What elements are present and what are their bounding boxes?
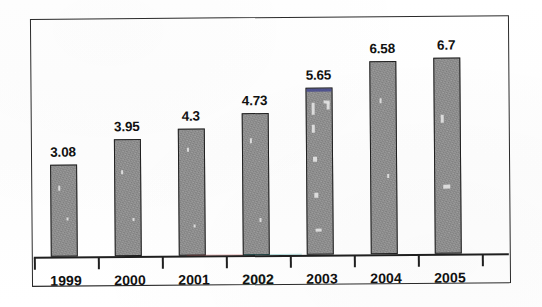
x-axis-tick: [34, 258, 36, 270]
x-axis-tick: [98, 257, 100, 269]
x-tick-label-2004: 2004: [359, 270, 413, 286]
scan-blue-tint: [306, 89, 331, 92]
x-axis-tick: [418, 255, 420, 267]
bar-2000: [114, 139, 142, 256]
x-axis-tick: [226, 256, 228, 268]
scan-speck: [380, 98, 382, 103]
x-tick-label-2002: 2002: [231, 271, 285, 287]
x-tick-label-2001: 2001: [167, 271, 221, 287]
bar-chart-screenshot: 3.08 3.95 4.3 4.73: [0, 0, 542, 307]
scan-speck: [313, 157, 317, 162]
bar-value-label-2000: 3.95: [103, 119, 151, 134]
x-tick-label-1999: 1999: [39, 272, 93, 288]
scan-speck: [121, 170, 123, 174]
x-axis-tick: [162, 257, 164, 269]
scan-speck: [194, 225, 196, 228]
scan-speck: [327, 103, 330, 110]
scan-speck: [443, 185, 450, 189]
x-tick-label-2000: 2000: [103, 272, 157, 288]
x-tick-label-2005: 2005: [423, 269, 477, 285]
bar-2001: [178, 129, 206, 256]
scan-speck: [66, 218, 68, 221]
chart-plot-area: 3.08 3.95 4.3 4.73: [0, 0, 542, 307]
bar-value-label-2001: 4.3: [167, 108, 215, 123]
scan-speck: [441, 115, 444, 123]
bar-value-label-1999: 3.08: [39, 144, 87, 159]
bar-2005: [433, 58, 462, 254]
bar-value-label-2004: 6.58: [358, 41, 406, 56]
x-axis-tick: [354, 255, 356, 267]
bar-2004: [369, 61, 398, 254]
scan-speck: [312, 103, 315, 115]
bar-value-label-2003: 5.65: [294, 67, 342, 82]
x-axis-tick: [290, 256, 292, 268]
bar-value-label-2002: 4.73: [231, 93, 279, 108]
scan-speck: [312, 125, 315, 133]
scan-speck: [387, 174, 389, 178]
scan-speck: [316, 229, 322, 232]
scan-speck: [250, 138, 252, 143]
bar-value-label-2005: 6.7: [422, 37, 470, 52]
scan-speck: [314, 193, 318, 198]
bar-2002: [242, 113, 270, 255]
scan-speck: [133, 218, 135, 221]
bar-1999: [50, 165, 78, 257]
scan-speck: [58, 186, 60, 191]
scan-speck: [260, 218, 262, 222]
x-tick-label-2003: 2003: [295, 270, 349, 286]
scan-speck: [187, 148, 189, 152]
chart-skew-wrapper: 3.08 3.95 4.3 4.73: [0, 0, 542, 307]
bar-2003: [305, 88, 333, 255]
x-axis-tick: [482, 254, 484, 266]
